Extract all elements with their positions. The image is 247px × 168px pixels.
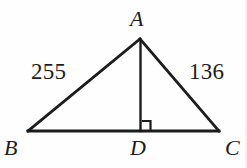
right-angle-marker [142, 121, 151, 130]
vertex-label-d: D [130, 137, 146, 159]
triangle-diagram: A B C D 255 136 [0, 0, 247, 168]
segment-ac [140, 39, 219, 131]
side-length-label-ab: 255 [31, 60, 66, 83]
vertex-label-a: A [130, 8, 143, 30]
vertex-label-c: C [225, 137, 240, 159]
vertex-label-b: B [4, 137, 17, 159]
side-length-label-ac: 136 [189, 60, 224, 83]
segment-ab [28, 39, 140, 131]
diagram-canvas [0, 0, 247, 168]
